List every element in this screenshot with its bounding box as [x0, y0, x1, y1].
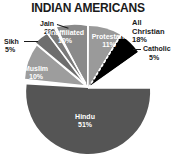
label-catholic-name: Catholic [143, 45, 171, 52]
chart-root: INDIAN AMERICANS [0, 0, 176, 164]
label-catholic-pct-wrap: 5% [149, 54, 159, 62]
label-protestant: Protestant 11% [89, 33, 129, 48]
label-unaffiliated-pct: 10% [38, 37, 92, 45]
label-all-christian: All Christian 18% [132, 19, 165, 45]
label-hindu-name: Hindu [58, 113, 112, 121]
label-muslim-pct: 10% [8, 73, 64, 81]
label-catholic-pct: 5% [149, 54, 159, 61]
label-unaffiliated: Unaffiliated 10% [38, 29, 92, 44]
label-muslim: Muslim 10% [8, 65, 64, 80]
label-jain-name: Jain [40, 20, 54, 27]
label-muslim-name: Muslim [8, 65, 64, 73]
label-sikh: Sikh [4, 38, 19, 46]
label-hindu: Hindu 51% [58, 113, 112, 128]
label-sikh-pct: 5% [5, 46, 15, 53]
label-jain: Jain [40, 20, 54, 28]
leader-line-sikh [24, 41, 38, 42]
label-protestant-name: Protestant [89, 33, 129, 41]
label-hindu-pct: 51% [58, 121, 112, 129]
label-protestant-pct: 11% [89, 41, 129, 49]
leader-line-catholic [133, 49, 141, 50]
label-unaffiliated-name: Unaffiliated [38, 29, 92, 37]
label-all-christian-pct: 18% [132, 36, 165, 45]
label-sikh-pct-wrap: 5% [5, 46, 15, 54]
label-catholic: Catholic [143, 45, 171, 53]
label-sikh-name: Sikh [4, 38, 19, 45]
